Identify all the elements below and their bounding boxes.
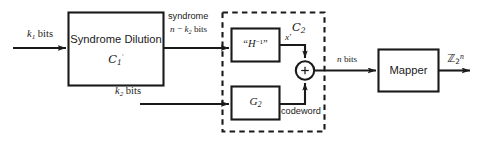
h-inverse-label: “H−1” bbox=[231, 38, 280, 51]
label-n-bits: n bits bbox=[337, 54, 357, 64]
label-k1-bits: k1 bits bbox=[27, 28, 53, 41]
label-x-prime: x′ bbox=[285, 32, 291, 42]
syndrome-dilution-title: Syndrome Dilution bbox=[68, 33, 164, 46]
label-codeword: codeword bbox=[281, 106, 321, 116]
label-k2-bits: k2 bits bbox=[115, 85, 141, 98]
label-syndrome-line1: syndrome bbox=[168, 11, 208, 21]
label-syndrome-line2: n − k2 bits bbox=[170, 24, 207, 35]
edge-codeword bbox=[280, 83, 306, 104]
group-box-c2-label: C2 bbox=[292, 17, 306, 35]
g2-label: G2 bbox=[231, 95, 280, 109]
label-output-z2n: ℤ2n bbox=[447, 48, 464, 66]
block-diagram-figure: k1 bits Syndrome Dilution C1′ syndrome n… bbox=[0, 0, 479, 143]
syndrome-dilution-code-label: C1′ bbox=[68, 48, 164, 67]
edge-x-prime bbox=[280, 45, 306, 58]
mapper-label: Mapper bbox=[378, 64, 439, 77]
